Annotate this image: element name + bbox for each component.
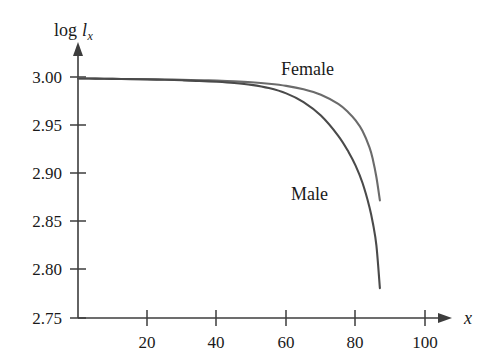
y-axis-label-log: log (54, 20, 77, 40)
y-tick-label: 3.00 (32, 68, 62, 87)
x-axis-tick-labels: 20 40 60 80 100 (139, 333, 438, 352)
y-axis-label-subscript: x (87, 29, 94, 43)
y-tick-label: 2.90 (32, 164, 62, 183)
y-tick-label: 2.95 (32, 116, 62, 135)
y-tick-label: 2.75 (32, 309, 62, 328)
x-axis-arrow-icon (438, 313, 452, 323)
figure-container: loglx 3.00 2.95 2.90 2.85 2.80 2.75 (0, 0, 496, 363)
y-axis-arrow-icon (73, 42, 83, 56)
data-curves (78, 78, 380, 288)
x-tick-label: 100 (412, 333, 438, 352)
series-label-male: Male (291, 184, 328, 204)
y-axis-label: loglx (54, 20, 94, 43)
y-tick-label: 2.80 (32, 260, 62, 279)
x-tick-label: 80 (347, 333, 364, 352)
curve-female (78, 78, 380, 200)
x-tick-label: 40 (208, 333, 225, 352)
y-axis-label-symbol: l (82, 20, 87, 40)
curve-male (78, 78, 380, 288)
x-tick-label: 20 (139, 333, 156, 352)
y-axis-tick-labels: 3.00 2.95 2.90 2.85 2.80 2.75 (32, 68, 62, 328)
series-label-female: Female (281, 59, 334, 79)
survivorship-curve-chart: loglx 3.00 2.95 2.90 2.85 2.80 2.75 (0, 0, 496, 363)
x-axis-label: x (463, 308, 472, 328)
y-tick-label: 2.85 (32, 212, 62, 231)
x-tick-label: 60 (278, 333, 295, 352)
